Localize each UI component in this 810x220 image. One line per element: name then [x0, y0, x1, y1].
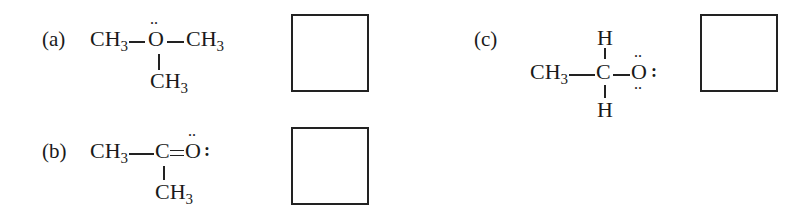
answer-box-a[interactable]	[291, 14, 369, 92]
carbon-atom: C	[155, 140, 170, 162]
oxygen-atom: O	[631, 61, 647, 83]
methyl-group-right: CH3	[186, 28, 224, 50]
question-label-a: (a)	[42, 29, 65, 50]
lone-pair-dots-right: :	[204, 141, 210, 159]
carbon-atom: C	[596, 61, 611, 83]
single-bond	[129, 153, 154, 155]
subscript: 3	[186, 191, 194, 207]
methyl-group-left: CH3	[90, 140, 128, 162]
oxygen-atom: O	[185, 140, 201, 162]
methyl-group-left: CH3	[530, 61, 568, 83]
single-bond	[569, 74, 595, 76]
question-label-b: (b)	[42, 141, 67, 162]
methyl-text: CH	[530, 59, 561, 84]
double-bond	[170, 150, 184, 156]
hydrogen-atom-bottom: H	[597, 99, 613, 121]
subscript: 3	[561, 71, 569, 87]
single-bond	[613, 74, 630, 76]
methyl-text: CH	[155, 179, 186, 204]
subscript: 3	[181, 80, 189, 96]
methyl-group-left: CH3	[90, 28, 128, 50]
subscript: 3	[217, 38, 225, 54]
single-bond	[129, 41, 145, 43]
question-label-c: (c)	[474, 29, 497, 50]
methyl-text: CH	[90, 26, 121, 51]
subscript: 3	[121, 150, 129, 166]
answer-box-b[interactable]	[291, 127, 369, 205]
methyl-text: CH	[150, 68, 181, 93]
methyl-group-bottom: CH3	[155, 181, 193, 203]
methyl-text: CH	[186, 26, 217, 51]
single-bond	[167, 41, 184, 43]
single-bond-vertical	[163, 166, 165, 180]
answer-box-c[interactable]	[700, 14, 778, 92]
methyl-text: CH	[90, 138, 121, 163]
oxygen-atom: O	[148, 28, 164, 50]
lone-pair-dots-bottom: ··	[634, 82, 642, 94]
lone-pair-dots-right: :	[651, 62, 657, 80]
hydrogen-atom-top: H	[597, 27, 613, 49]
single-bond-vertical	[604, 48, 606, 59]
methyl-group-bottom: CH3	[150, 70, 188, 92]
subscript: 3	[121, 38, 129, 54]
